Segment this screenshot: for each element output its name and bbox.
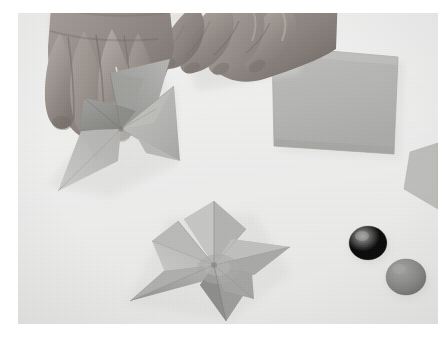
photograph xyxy=(18,13,438,324)
screenshot-root xyxy=(0,0,448,346)
photo-canvas xyxy=(18,13,438,324)
